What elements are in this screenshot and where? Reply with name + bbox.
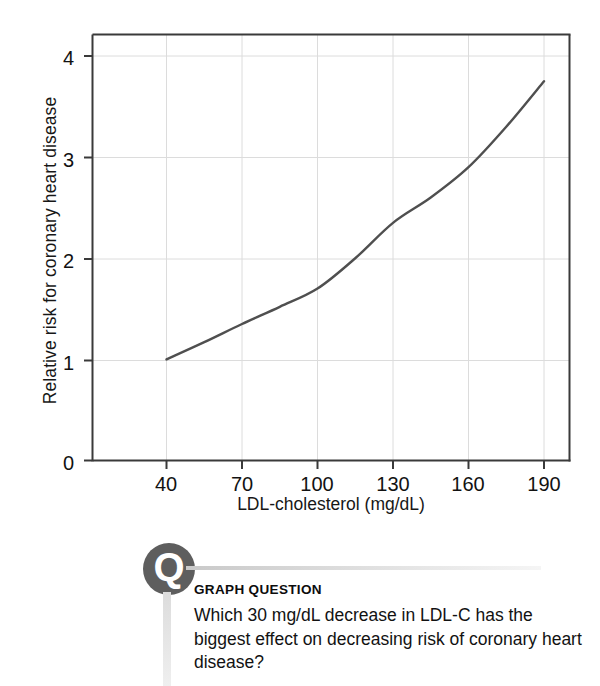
x-tick-label-160: 160 [438, 474, 498, 494]
y-gridlines [92, 56, 570, 361]
x-gridlines [167, 35, 545, 461]
risk-curve [167, 81, 545, 359]
y-tick-label-2: 2 [48, 251, 74, 271]
callout-question-text: Which 30 mg/dL decrease in LDL-C has the… [194, 604, 594, 675]
callout-heading: GRAPH QUESTION [194, 582, 322, 597]
svg-text:Q: Q [153, 545, 184, 589]
y-tick-label-1: 1 [48, 353, 74, 373]
y-tick-label-0: 0 [48, 453, 74, 473]
x-axis-label: LDL-cholesterol (mg/dL) [92, 494, 570, 515]
x-tick-label-40: 40 [136, 474, 196, 494]
callout-rule [186, 566, 541, 570]
x-tick-label-70: 70 [212, 474, 272, 494]
graph-question-callout: Q GRAPH QUESTION Which 30 mg/dL decrease… [0, 540, 600, 686]
x-tick-label-190: 190 [514, 474, 574, 494]
plot-frame [93, 35, 571, 462]
x-tick-label-130: 130 [363, 474, 423, 494]
x-tick-marks [167, 461, 545, 469]
x-tick-label-100: 100 [287, 474, 347, 494]
plot-area [0, 0, 600, 500]
y-tick-label-3: 3 [48, 150, 74, 170]
y-tick-marks [84, 56, 92, 461]
callout-stem [163, 592, 171, 686]
chart-figure: Relative risk for coronary heart disease [0, 0, 600, 500]
y-tick-label-4: 4 [48, 48, 74, 68]
